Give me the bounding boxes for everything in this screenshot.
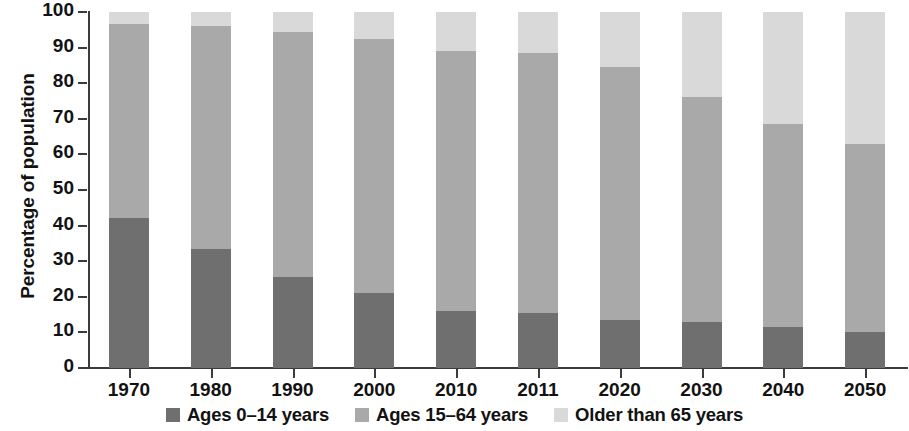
- y-tick-mark: [78, 11, 87, 13]
- x-tick-mark: [865, 369, 867, 378]
- x-tick-label: 2020: [585, 379, 655, 401]
- y-tick-mark: [78, 225, 87, 227]
- bar-group[interactable]: [350, 12, 398, 368]
- x-tick-label: 1980: [176, 379, 246, 401]
- legend-swatch-icon: [355, 408, 369, 422]
- x-tick-mark: [702, 369, 704, 378]
- bar-group[interactable]: [596, 12, 644, 368]
- y-tick-label: 40: [53, 214, 74, 233]
- bar-segment-working: [600, 67, 640, 320]
- x-tick-label: 1970: [94, 379, 164, 401]
- bar-segment-working: [436, 51, 476, 311]
- x-tick-mark: [783, 369, 785, 378]
- bar-stack[interactable]: [518, 12, 558, 368]
- legend-swatch-icon: [554, 408, 568, 422]
- bar-segment-older: [354, 12, 394, 39]
- bar-stack[interactable]: [109, 12, 149, 368]
- bar-segment-young: [354, 293, 394, 368]
- bar-stack[interactable]: [436, 12, 476, 368]
- bar-segment-older: [682, 12, 722, 97]
- x-tick-mark: [538, 369, 540, 378]
- bar-segment-older: [763, 12, 803, 124]
- bar-segment-young: [436, 311, 476, 368]
- bar-stack[interactable]: [600, 12, 640, 368]
- bar-segment-working: [682, 97, 722, 321]
- x-tick-mark: [211, 369, 213, 378]
- y-tick-mark: [78, 47, 87, 49]
- bar-segment-young: [109, 218, 149, 368]
- bars-container: [88, 12, 908, 368]
- bar-group[interactable]: [678, 12, 726, 368]
- bar-segment-older: [436, 12, 476, 51]
- bar-segment-young: [600, 320, 640, 368]
- x-tick-label: 2011: [503, 379, 573, 401]
- bar-group[interactable]: [432, 12, 480, 368]
- chart-legend: Ages 0–14 yearsAges 15–64 yearsOlder tha…: [0, 404, 909, 426]
- x-tick-mark: [374, 369, 376, 378]
- legend-item-1[interactable]: Ages 15–64 years: [355, 404, 528, 426]
- bar-segment-older: [845, 12, 885, 144]
- x-tick-label: 2050: [830, 379, 900, 401]
- bar-stack[interactable]: [191, 12, 231, 368]
- legend-swatch-icon: [166, 408, 180, 422]
- bar-stack[interactable]: [682, 12, 722, 368]
- x-tick-mark: [293, 369, 295, 378]
- y-tick-label: 90: [53, 36, 74, 55]
- y-tick-label: 100: [42, 0, 74, 19]
- x-tick-mark: [456, 369, 458, 378]
- y-tick-mark: [78, 153, 87, 155]
- bar-group[interactable]: [105, 12, 153, 368]
- y-tick-label: 20: [53, 285, 74, 304]
- y-tick-label: 60: [53, 142, 74, 161]
- bar-segment-older: [518, 12, 558, 53]
- bar-stack[interactable]: [273, 12, 313, 368]
- bar-segment-older: [191, 12, 231, 26]
- bar-group[interactable]: [514, 12, 562, 368]
- y-tick-mark: [78, 82, 87, 84]
- legend-label: Ages 0–14 years: [187, 404, 329, 426]
- bar-stack[interactable]: [354, 12, 394, 368]
- legend-item-2[interactable]: Older than 65 years: [554, 404, 743, 426]
- bar-segment-older: [109, 12, 149, 24]
- bar-segment-older: [600, 12, 640, 67]
- bar-segment-working: [845, 144, 885, 333]
- y-tick-label: 10: [53, 320, 74, 339]
- x-tick-mark: [129, 369, 131, 378]
- bar-segment-working: [518, 53, 558, 313]
- legend-label: Ages 15–64 years: [376, 404, 528, 426]
- bar-segment-young: [682, 322, 722, 368]
- bar-segment-young: [763, 327, 803, 368]
- bar-segment-young: [191, 249, 231, 368]
- bar-group[interactable]: [187, 12, 235, 368]
- x-tick-mark: [620, 369, 622, 378]
- bar-segment-working: [354, 39, 394, 294]
- y-tick-label: 0: [63, 356, 74, 375]
- x-tick-label: 2000: [339, 379, 409, 401]
- y-tick-label: 80: [53, 71, 74, 90]
- bar-stack[interactable]: [845, 12, 885, 368]
- bar-segment-young: [845, 332, 885, 368]
- y-tick-mark: [78, 189, 87, 191]
- y-axis-ticks: 0102030405060708090100: [0, 0, 88, 380]
- y-tick-mark: [78, 331, 87, 333]
- legend-item-0[interactable]: Ages 0–14 years: [166, 404, 329, 426]
- legend-label: Older than 65 years: [575, 404, 743, 426]
- y-tick-label: 70: [53, 107, 74, 126]
- y-tick-mark: [78, 296, 87, 298]
- bar-segment-working: [191, 26, 231, 249]
- bar-segment-older: [273, 12, 313, 32]
- stacked-bar-chart: Percentage of population 010203040506070…: [0, 0, 909, 431]
- y-tick-label: 30: [53, 249, 74, 268]
- x-tick-label: 1990: [258, 379, 328, 401]
- x-tick-label: 2010: [421, 379, 491, 401]
- bar-segment-young: [273, 277, 313, 368]
- x-tick-label: 2040: [748, 379, 818, 401]
- bar-segment-young: [518, 313, 558, 368]
- bar-group[interactable]: [841, 12, 889, 368]
- bar-segment-working: [273, 32, 313, 278]
- bar-group[interactable]: [269, 12, 317, 368]
- y-tick-mark: [78, 260, 87, 262]
- bar-stack[interactable]: [763, 12, 803, 368]
- y-tick-label: 50: [53, 178, 74, 197]
- bar-group[interactable]: [759, 12, 807, 368]
